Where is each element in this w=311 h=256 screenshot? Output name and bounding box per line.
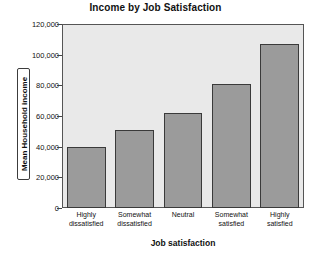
bar	[260, 44, 299, 208]
y-tick-label: 20,000	[13, 173, 59, 182]
y-tick-label: 0	[13, 204, 59, 213]
bar	[115, 130, 154, 208]
bar	[164, 113, 203, 208]
y-tick-mark	[57, 208, 62, 209]
x-axis-title: Job satisfaction	[62, 238, 304, 248]
bars-layer	[62, 24, 304, 208]
chart-title: Income by Job Satisfaction	[0, 2, 311, 13]
y-axis-title: Mean Household income	[19, 77, 28, 171]
y-tick-label: 60,000	[13, 112, 59, 121]
y-tick-label: 80,000	[13, 81, 59, 90]
y-tick-label: 100,000	[13, 50, 59, 59]
y-tick-label: 120,000	[13, 20, 59, 29]
bar	[67, 147, 106, 208]
x-tick-label-line: Highly	[250, 211, 310, 220]
bar-chart: Income by Job Satisfaction Mean Househol…	[0, 0, 311, 256]
x-tick-label-line: dissatisfied	[104, 220, 164, 229]
x-tick-label-line: satisfied	[250, 220, 310, 229]
y-tick-label: 40,000	[13, 142, 59, 151]
x-tick-label: Highlysatisfied	[250, 211, 310, 228]
bar	[212, 84, 251, 208]
